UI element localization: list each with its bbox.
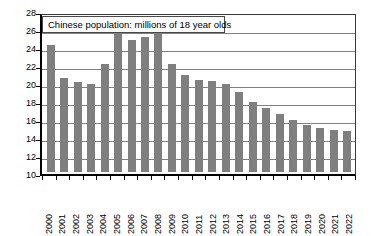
x-tick-label: 2004 xyxy=(98,180,108,234)
bar xyxy=(330,130,338,172)
bar xyxy=(303,125,311,172)
bar-chart: 28262422201816141210 Chinese population:… xyxy=(0,0,381,236)
x-tick-label: 2008 xyxy=(153,180,163,234)
x-tick-mark xyxy=(246,176,247,180)
bar xyxy=(128,40,136,172)
x-tick-label: 2017 xyxy=(276,180,286,234)
y-tick-label: 22 xyxy=(14,63,36,72)
x-tick-mark xyxy=(164,176,165,180)
y-tick-label: 28 xyxy=(14,9,36,18)
x-tick-label: 2015 xyxy=(248,180,258,234)
y-tick-label: 16 xyxy=(14,117,36,126)
x-tick-label: 2016 xyxy=(262,180,272,234)
bar xyxy=(154,26,162,172)
x-tick-mark xyxy=(287,176,288,180)
chart-title: Chinese population: millions of 18 year … xyxy=(48,19,231,30)
x-tick-mark xyxy=(56,176,57,180)
bar xyxy=(222,84,230,172)
x-tick-mark xyxy=(341,176,342,180)
x-tick-label: 2022 xyxy=(344,180,354,234)
y-axis: 28262422201816141210 xyxy=(8,0,36,236)
x-tick-mark xyxy=(69,176,70,180)
x-tick-mark xyxy=(205,176,206,180)
bar xyxy=(195,80,203,172)
bar xyxy=(235,92,243,172)
x-tick-label: 2000 xyxy=(44,180,54,234)
x-tick-mark xyxy=(192,176,193,180)
x-tick-label: 2019 xyxy=(303,180,313,234)
x-tick-label: 2011 xyxy=(194,180,204,234)
x-tick-label: 2012 xyxy=(208,180,218,234)
x-tick-mark xyxy=(301,176,302,180)
x-tick-label: 2003 xyxy=(85,180,95,234)
bar xyxy=(316,128,324,172)
x-tick-mark xyxy=(328,176,329,180)
bar xyxy=(249,102,257,172)
bar xyxy=(87,84,95,172)
bar xyxy=(114,26,122,172)
y-tick-label: 24 xyxy=(14,45,36,54)
bar xyxy=(181,75,189,172)
x-tick-label: 2005 xyxy=(112,180,122,234)
x-tick-mark xyxy=(83,176,84,180)
x-tick-label: 2002 xyxy=(71,180,81,234)
x-tick-label: 2014 xyxy=(235,180,245,234)
x-tick-label: 2001 xyxy=(57,180,67,234)
x-tick-label: 2020 xyxy=(317,180,327,234)
plot-area xyxy=(40,14,356,176)
x-tick-mark xyxy=(151,176,152,180)
x-tick-mark xyxy=(233,176,234,180)
y-tick-label: 26 xyxy=(14,27,36,36)
x-tick-mark xyxy=(110,176,111,180)
x-tick-mark xyxy=(273,176,274,180)
y-tick-mark xyxy=(36,176,40,177)
x-tick-label: 2006 xyxy=(126,180,136,234)
x-tick-mark xyxy=(260,176,261,180)
y-tick-label: 12 xyxy=(14,153,36,162)
x-tick-mark xyxy=(219,176,220,180)
x-tick-label: 2007 xyxy=(139,180,149,234)
x-tick-mark xyxy=(355,176,356,180)
bar xyxy=(101,64,109,172)
x-tick-label: 2018 xyxy=(289,180,299,234)
chart-title-box: Chinese population: millions of 18 year … xyxy=(42,16,225,33)
x-tick-mark xyxy=(178,176,179,180)
y-tick-label: 10 xyxy=(14,171,36,180)
x-tick-mark xyxy=(96,176,97,180)
bar xyxy=(208,81,216,172)
x-tick-mark xyxy=(137,176,138,180)
x-tick-mark xyxy=(42,176,43,180)
bar-series xyxy=(44,15,354,172)
bar xyxy=(289,120,297,172)
bar xyxy=(47,45,55,172)
y-tick-label: 20 xyxy=(14,81,36,90)
bar xyxy=(141,37,149,172)
bar xyxy=(60,78,68,172)
x-axis: 2000200120022003200420052006200720082009… xyxy=(42,180,356,234)
x-tick-mark xyxy=(124,176,125,180)
x-tick-label: 2021 xyxy=(330,180,340,234)
x-tick-label: 2009 xyxy=(167,180,177,234)
bar xyxy=(343,131,351,172)
x-tick-label: 2010 xyxy=(180,180,190,234)
x-tick-mark xyxy=(314,176,315,180)
x-tick-label: 2013 xyxy=(221,180,231,234)
bar xyxy=(168,64,176,172)
bar xyxy=(74,82,82,172)
y-tick-label: 14 xyxy=(14,135,36,144)
bar xyxy=(262,108,270,172)
y-tick-label: 18 xyxy=(14,99,36,108)
bar xyxy=(276,114,284,172)
